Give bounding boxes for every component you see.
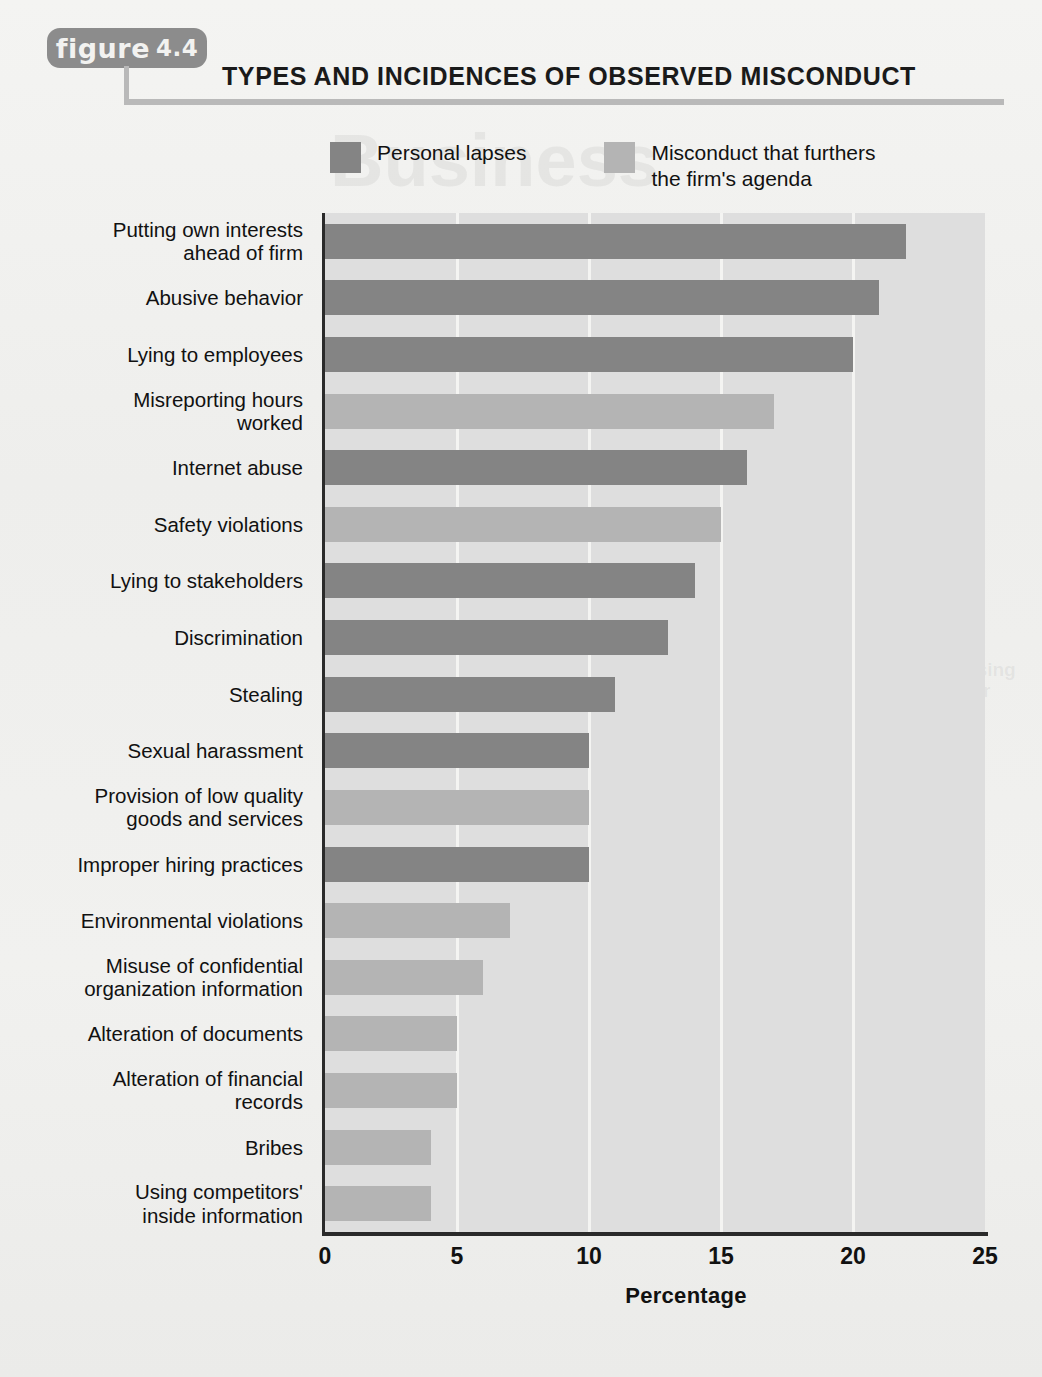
bar-1: [325, 280, 879, 315]
figure-badge-word: figure: [56, 33, 150, 64]
x-axis-line: [322, 1232, 988, 1236]
legend-item-firm: Misconduct that furthers the firm's agen…: [604, 140, 875, 193]
y-axis-label-3: Misreporting hours worked: [3, 388, 303, 435]
y-axis-label-9: Sexual harassment: [3, 739, 303, 762]
y-axis-line: [322, 213, 325, 1232]
y-axis-label-8: Stealing: [3, 683, 303, 706]
bar-9: [325, 733, 589, 768]
x-axis-title: Percentage: [0, 1283, 1042, 1309]
bar-4: [325, 450, 747, 485]
legend-swatch-firm: [604, 142, 635, 173]
y-axis-label-5: Safety violations: [3, 513, 303, 536]
x-tick-5: 5: [451, 1243, 464, 1270]
y-axis-label-16: Bribes: [3, 1136, 303, 1159]
bar-11: [325, 847, 589, 882]
x-axis-title-text: Percentage: [625, 1283, 747, 1308]
x-tick-10: 10: [576, 1243, 602, 1270]
y-axis-label-1: Abusive behavior: [3, 286, 303, 309]
x-tick-20: 20: [840, 1243, 866, 1270]
bar-8: [325, 677, 615, 712]
bar-13: [325, 960, 483, 995]
y-axis-label-13: Misuse of confidential organization info…: [3, 954, 303, 1001]
bar-12: [325, 903, 510, 938]
y-axis-label-4: Internet abuse: [3, 456, 303, 479]
legend-label-firm: Misconduct that furthers the firm's agen…: [651, 140, 875, 193]
chart-legend: Personal lapsesMisconduct that furthers …: [330, 140, 876, 193]
y-axis-label-0: Putting own interests ahead of firm: [3, 218, 303, 265]
x-tick-25: 25: [972, 1243, 998, 1270]
legend-item-personal: Personal lapses: [330, 140, 526, 173]
y-axis-label-2: Lying to employees: [3, 343, 303, 366]
x-tick-0: 0: [319, 1243, 332, 1270]
bar-0: [325, 224, 906, 259]
bar-5: [325, 507, 721, 542]
legend-label-personal: Personal lapses: [377, 140, 526, 166]
bar-17: [325, 1186, 431, 1221]
y-axis-label-17: Using competitors' inside information: [3, 1180, 303, 1227]
y-axis-label-6: Lying to stakeholders: [3, 569, 303, 592]
y-axis-label-7: Discrimination: [3, 626, 303, 649]
y-axis-label-11: Improper hiring practices: [3, 853, 303, 876]
y-axis-label-12: Environmental violations: [3, 909, 303, 932]
bar-10: [325, 790, 589, 825]
bar-14: [325, 1016, 457, 1051]
bar-15: [325, 1073, 457, 1108]
chart-plot-area: [325, 213, 985, 1232]
bar-3: [325, 394, 774, 429]
figure-badge: figure 4.4: [47, 28, 207, 68]
bar-6: [325, 563, 695, 598]
y-axis-label-10: Provision of low quality goods and servi…: [3, 784, 303, 831]
y-axis-label-15: Alteration of financial records: [3, 1067, 303, 1114]
figure-rule-horizontal: [124, 99, 1004, 105]
bar-2: [325, 337, 853, 372]
x-tick-15: 15: [708, 1243, 734, 1270]
legend-swatch-personal: [330, 142, 361, 173]
figure-badge-number: 4.4: [156, 35, 198, 61]
bar-16: [325, 1130, 431, 1165]
page-title: TYPES AND INCIDENCES OF OBSERVED MISCOND…: [222, 62, 916, 91]
y-axis-category-labels: Putting own interests ahead of firmAbusi…: [0, 213, 313, 1232]
bar-7: [325, 620, 668, 655]
y-axis-label-14: Alteration of documents: [3, 1022, 303, 1045]
